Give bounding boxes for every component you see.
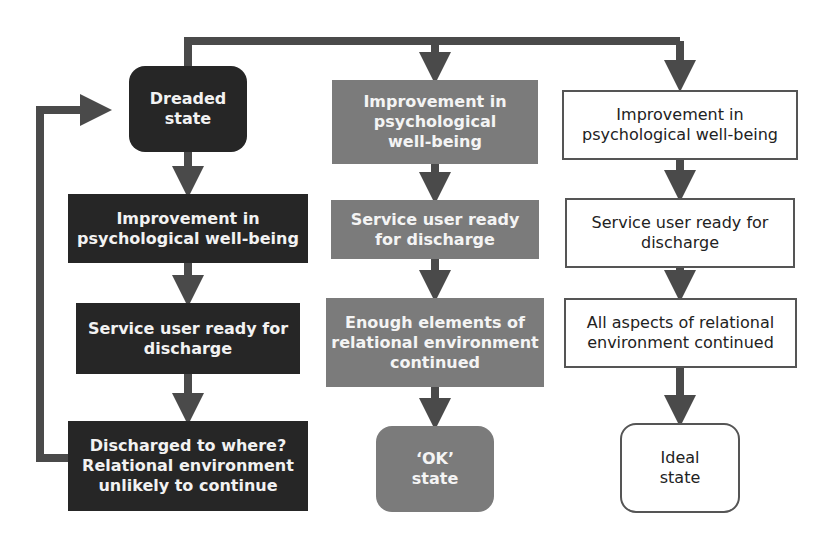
node-label: ‘OK’ state [412, 449, 458, 489]
node-label: Service user ready for discharge [592, 213, 769, 253]
loop-back-arrow [40, 110, 96, 458]
node-label: Dreaded state [150, 89, 227, 129]
node-left-discharged-to-where: Discharged to where? Relational environm… [68, 421, 308, 511]
node-middle-improvement: Improvement in psychological well-being [332, 80, 538, 164]
node-dreaded-state: Dreaded state [129, 66, 247, 152]
node-right-improvement: Improvement in psychological well-being [562, 90, 798, 160]
node-middle-enough-elements: Enough elements of relational environmen… [326, 298, 544, 387]
node-label: Enough elements of relational environmen… [331, 313, 538, 373]
node-label: Service user ready for discharge [88, 319, 288, 359]
node-ok-state: ‘OK’ state [376, 426, 494, 512]
node-label: Improvement in psychological well-being [363, 92, 506, 152]
node-label: Discharged to where? Relational environm… [82, 436, 294, 496]
node-label: Ideal state [660, 448, 701, 488]
node-left-improvement: Improvement in psychological well-being [68, 194, 308, 263]
node-middle-ready-for-discharge: Service user ready for discharge [331, 200, 539, 259]
node-label: Service user ready for discharge [351, 210, 520, 250]
node-right-ready-for-discharge: Service user ready for discharge [565, 198, 795, 268]
node-label: Improvement in psychological well-being [582, 105, 778, 145]
node-right-all-aspects: All aspects of relational environment co… [564, 298, 797, 368]
node-label: Improvement in psychological well-being [77, 209, 299, 249]
node-left-ready-for-discharge: Service user ready for discharge [76, 303, 300, 374]
node-ideal-state: Ideal state [620, 423, 740, 513]
node-label: All aspects of relational environment co… [587, 313, 774, 353]
